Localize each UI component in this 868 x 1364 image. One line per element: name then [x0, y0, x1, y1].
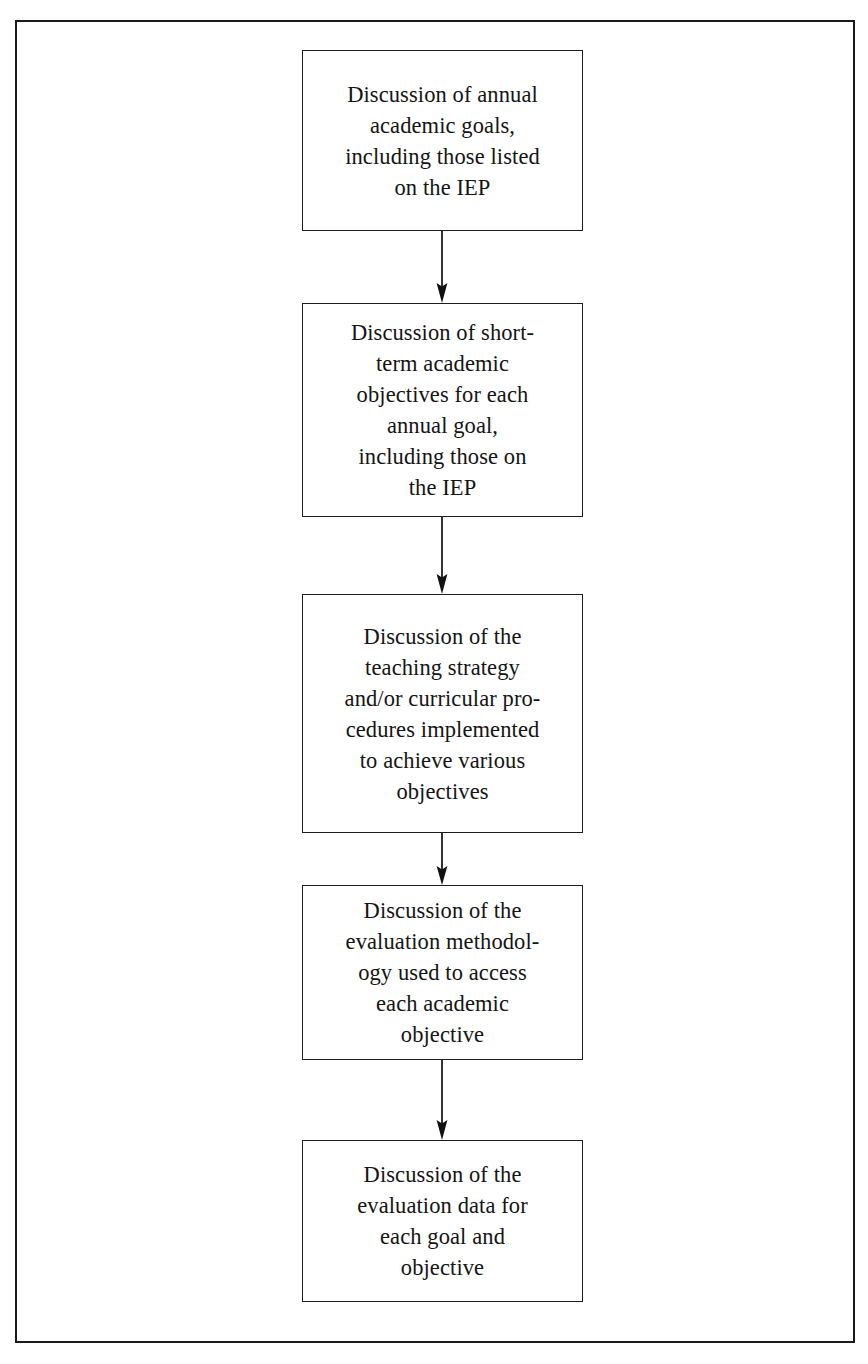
- arrow-down-icon: [434, 833, 450, 885]
- arrow-down-icon: [434, 1060, 450, 1140]
- flow-node-3-label: Discussion of the teaching strategy and/…: [323, 621, 563, 807]
- flow-connector-2: [434, 517, 450, 594]
- flow-connector-3: [434, 833, 450, 885]
- flow-node-5-label: Discussion of the evaluation data for ea…: [323, 1159, 563, 1283]
- flowchart-page: Discussion of annual academic goals, inc…: [0, 0, 868, 1364]
- flow-node-1: Discussion of annual academic goals, inc…: [302, 50, 583, 231]
- flow-node-4: Discussion of the evaluation methodol- o…: [302, 885, 583, 1060]
- flow-connector-4: [434, 1060, 450, 1140]
- flow-node-5: Discussion of the evaluation data for ea…: [302, 1140, 583, 1302]
- flow-connector-1: [434, 231, 450, 303]
- arrow-down-icon: [434, 517, 450, 594]
- flowchart-diagram: Discussion of annual academic goals, inc…: [0, 0, 868, 1364]
- flow-node-2: Discussion of short- term academic objec…: [302, 303, 583, 517]
- flow-node-2-label: Discussion of short- term academic objec…: [323, 317, 563, 503]
- flow-node-3: Discussion of the teaching strategy and/…: [302, 594, 583, 833]
- flow-node-1-label: Discussion of annual academic goals, inc…: [323, 79, 563, 203]
- flow-node-4-label: Discussion of the evaluation methodol- o…: [323, 895, 563, 1050]
- arrow-down-icon: [434, 231, 450, 303]
